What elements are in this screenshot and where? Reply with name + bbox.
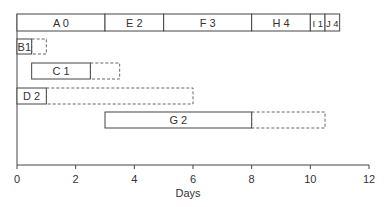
critical-activity-label: I 1 <box>312 18 323 29</box>
activity-label: C 1 <box>52 65 69 77</box>
activity-label: B1 <box>18 41 31 53</box>
critical-activity-label: A 0 <box>53 17 69 29</box>
activity-label: D 2 <box>23 90 40 102</box>
x-tick-label: 4 <box>131 173 137 185</box>
x-tick-label: 2 <box>73 173 79 185</box>
float-bar <box>90 63 119 79</box>
float-bar <box>46 88 193 104</box>
x-tick-label: 12 <box>363 173 375 185</box>
critical-activity-label: F 3 <box>200 17 216 29</box>
activity-label: G 2 <box>169 114 187 126</box>
x-tick-label: 0 <box>14 173 20 185</box>
float-bar <box>252 112 325 128</box>
float-bar <box>32 39 47 54</box>
x-axis-label: Days <box>175 187 201 199</box>
x-tick-label: 6 <box>190 173 196 185</box>
gantt-chart: 024681012DaysA 0E 2F 3H 4I 1J 4B1C 1D 2G… <box>0 0 391 207</box>
x-tick-label: 8 <box>249 173 255 185</box>
critical-activity-label: J 4 <box>326 18 339 29</box>
x-tick-label: 10 <box>304 173 316 185</box>
critical-activity-label: H 4 <box>272 17 289 29</box>
critical-activity-label: E 2 <box>126 17 143 29</box>
